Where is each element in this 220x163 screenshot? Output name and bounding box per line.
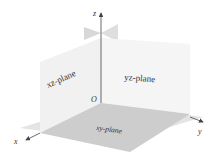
x-axis <box>26 133 40 140</box>
origin-label: O <box>91 95 97 104</box>
back-wedge-left <box>84 27 101 40</box>
coordinate-planes-diagram: z x y O xz-plane yz-plane xy-plane <box>0 0 220 163</box>
y-axis-label: y <box>197 127 202 136</box>
x-axis-label: x <box>13 137 18 146</box>
z-axis-label: z <box>92 9 97 18</box>
